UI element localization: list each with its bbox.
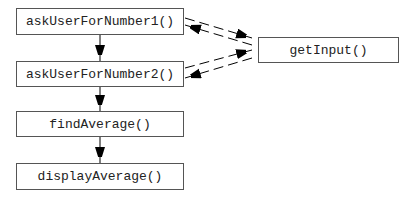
node-ask-user-for-number1: askUserForNumber1()	[16, 8, 184, 35]
node-find-average: findAverage()	[16, 111, 184, 137]
node-label: askUserForNumber1()	[26, 14, 174, 29]
node-label: askUserForNumber2()	[26, 67, 174, 82]
node-label: getInput()	[289, 43, 367, 58]
node-get-input: getInput()	[258, 37, 399, 63]
node-display-average: displayAverage()	[16, 163, 184, 190]
node-label: findAverage()	[49, 117, 150, 132]
dashed-arrow-getinput-to-ask2	[185, 58, 252, 78]
node-ask-user-for-number2: askUserForNumber2()	[16, 61, 184, 87]
node-label: displayAverage()	[38, 169, 163, 184]
dashed-arrow-ask2-to-getinput	[185, 50, 252, 68]
